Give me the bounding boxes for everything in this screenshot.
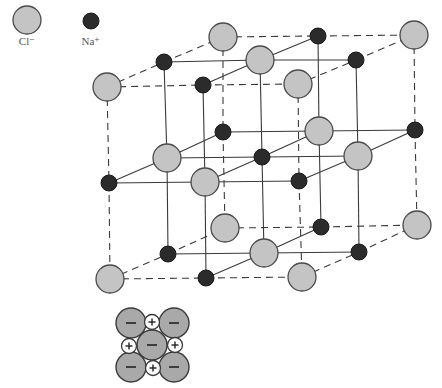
chloride-ion: [211, 214, 239, 242]
sodium-ion: [310, 28, 326, 44]
sodium-ion: [313, 219, 329, 235]
chloride-ion: [209, 23, 237, 51]
sodium-ion: [195, 77, 211, 93]
sodium-ion: [160, 246, 176, 262]
chloride-ion: [305, 117, 333, 145]
lattice-ions: [93, 21, 431, 293]
legend: [13, 6, 99, 34]
sodium-ion: [156, 54, 172, 70]
legend-label-na: Na⁺: [82, 35, 101, 48]
chloride-ion: [288, 263, 316, 291]
legend-label-cl: Cl⁻: [19, 35, 35, 48]
chloride-ion-legend-icon: [13, 6, 41, 34]
chloride-ion: [246, 46, 274, 74]
chloride-ion: [96, 265, 124, 293]
sodium-ion: [215, 124, 231, 140]
sodium-ion: [101, 175, 117, 191]
sodium-ion: [351, 244, 367, 260]
inset-2d-packing: [116, 308, 189, 382]
chloride-ion: [400, 21, 428, 49]
sodium-ion: [407, 122, 423, 138]
chloride-ion: [284, 70, 312, 98]
chloride-ion: [153, 144, 181, 172]
chloride-ion: [93, 73, 121, 101]
sodium-ion: [348, 52, 364, 68]
chloride-ion: [403, 211, 431, 239]
chloride-ion: [250, 239, 278, 267]
sodium-ion: [198, 270, 214, 286]
sodium-ion: [291, 173, 307, 189]
nacl-diagram: [0, 0, 442, 388]
sodium-ion: [254, 149, 270, 165]
chloride-ion: [191, 168, 219, 196]
sodium-ion-legend-icon: [83, 13, 99, 29]
chloride-ion: [344, 142, 372, 170]
